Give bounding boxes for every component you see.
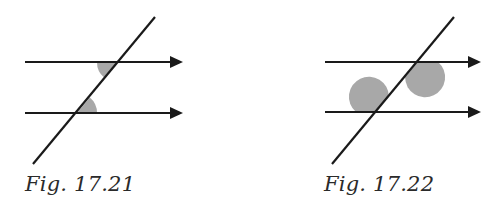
arrowhead-upper-icon xyxy=(468,56,481,68)
figure-caption: Fig. 17.21 xyxy=(25,172,135,196)
figure-17-22: Fig. 17.22 xyxy=(252,0,504,203)
figure-caption: Fig. 17.22 xyxy=(324,172,434,196)
shaded-angle-lower xyxy=(349,77,389,112)
arrowhead-lower-icon xyxy=(170,107,183,119)
figure-17-21: Fig. 17.21 xyxy=(0,0,252,203)
arrowhead-upper-icon xyxy=(170,56,183,68)
arrowhead-lower-icon xyxy=(468,106,481,118)
transversal-line xyxy=(33,17,155,164)
